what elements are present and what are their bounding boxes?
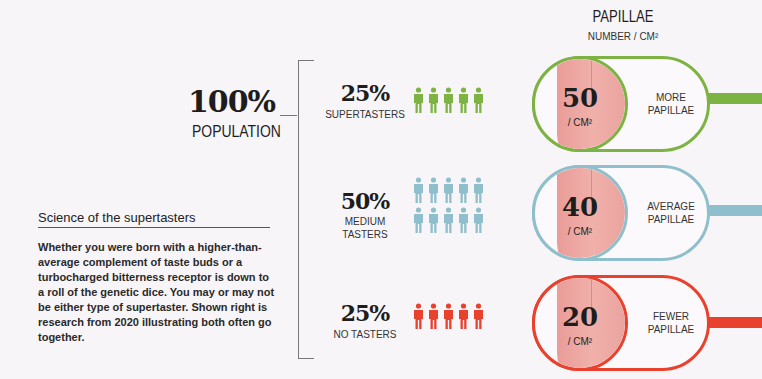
label-line: PAPILLAE — [636, 213, 706, 226]
papillae-value: 20 — [535, 302, 625, 332]
label-line: MORE — [636, 91, 706, 104]
average-papillae-label: AVERAGE PAPILLAE — [636, 200, 706, 226]
medium-tasters-label-1: MEDIUM — [315, 216, 415, 228]
population-percent: 100% — [188, 84, 274, 119]
supertasters-percent: 25% — [315, 80, 415, 106]
person-icon — [413, 177, 424, 203]
person-icon — [473, 87, 484, 113]
blue-bar — [706, 205, 762, 216]
papillae-title: PAPILLAE — [574, 8, 672, 26]
person-icon — [473, 177, 484, 203]
section-title: Science of the supertasters — [38, 210, 196, 225]
green-bar — [706, 93, 762, 104]
label-line: PAPILLAE — [636, 323, 706, 336]
person-icon — [473, 207, 484, 233]
red-bar — [706, 317, 762, 328]
bracket-top — [298, 60, 314, 61]
person-icon — [413, 207, 424, 233]
section-divider — [38, 227, 270, 228]
medium-tasters-percent: 50% — [315, 188, 415, 214]
bracket-bottom — [298, 358, 314, 359]
population-label: POPULATION — [192, 122, 274, 142]
person-icon — [473, 303, 484, 329]
person-icon — [443, 303, 454, 329]
no-tasters-percent: 25% — [315, 300, 415, 326]
tongue-icon: 40 / CM² — [532, 165, 628, 261]
person-icon — [443, 207, 454, 233]
papillae-subtitle: NUMBER / CM² — [563, 31, 683, 42]
person-icon — [458, 87, 469, 113]
label-line: PAPILLAE — [636, 104, 706, 117]
person-icon — [428, 87, 439, 113]
no-tasters-label: NO TASTERS — [315, 329, 415, 341]
medium-tasters-icons — [413, 177, 493, 233]
person-icon — [443, 87, 454, 113]
person-icon — [413, 303, 424, 329]
papillae-value: 50 — [535, 83, 625, 113]
person-icon — [458, 177, 469, 203]
label-line: AVERAGE — [636, 200, 706, 213]
label-line: FEWER — [636, 310, 706, 323]
person-icon — [428, 207, 439, 233]
section-body: Whether you were born with a higher-than… — [38, 240, 278, 345]
connector-line — [280, 115, 297, 116]
tongue-icon: 50 / CM² — [532, 56, 628, 152]
papillae-value: 40 — [535, 192, 625, 222]
bracket-line — [298, 60, 299, 358]
more-papillae-label: MORE PAPILLAE — [636, 91, 706, 117]
tongue-icon: 20 / CM² — [532, 275, 628, 371]
no-tasters-icons — [413, 303, 484, 329]
person-icon — [443, 177, 454, 203]
supertasters-icons — [413, 87, 484, 113]
supertasters-label: SUPERTASTERS — [315, 109, 415, 121]
person-icon — [428, 177, 439, 203]
papillae-unit: / CM² — [535, 336, 625, 347]
medium-tasters-label-2: TASTERS — [315, 229, 415, 241]
person-icon — [428, 303, 439, 329]
person-icon — [458, 303, 469, 329]
person-icon — [413, 87, 424, 113]
papillae-unit: / CM² — [535, 117, 625, 128]
fewer-papillae-label: FEWER PAPILLAE — [636, 310, 706, 336]
papillae-unit: / CM² — [535, 226, 625, 237]
person-icon — [458, 207, 469, 233]
